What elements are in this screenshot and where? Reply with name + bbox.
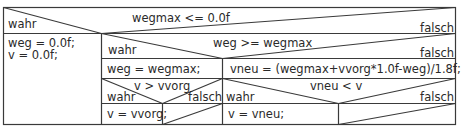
block2-true-label: wahr	[108, 44, 136, 57]
block2-false-label: falsch	[420, 47, 454, 60]
block3-true-label: wahr	[107, 91, 135, 104]
block1-true-statement-2: v = 0.0f;	[8, 49, 58, 62]
block4-condition: vneu < v	[310, 80, 362, 93]
block2-true-statement: weg = wegmax;	[107, 63, 200, 76]
block3-condition: v > vvorg	[134, 80, 190, 93]
block4-false-label: falsch	[420, 91, 454, 104]
block4-true-label: wahr	[226, 91, 254, 104]
block3-true-statement: v = vvorg;	[107, 108, 167, 121]
block2-condition: weg >= wegmax	[213, 37, 312, 50]
block2-false-statement: vneu = (wegmax+vvorg*1.0f-weg)/1.8f;	[230, 63, 461, 76]
block3-false-label: falsch	[188, 91, 222, 104]
block1-condition: wegmax <= 0.0f	[132, 12, 230, 25]
block1-true-label: wahr	[8, 18, 36, 31]
block4-true-statement: v = vneu;	[228, 108, 284, 121]
block1-false-label: falsch	[420, 22, 454, 35]
